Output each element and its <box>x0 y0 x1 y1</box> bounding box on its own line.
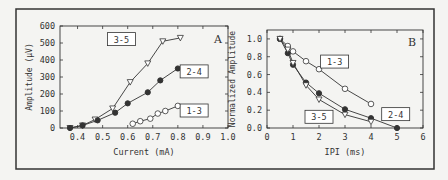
data-point-filled <box>394 125 399 130</box>
y-tick-label: 500 <box>40 38 55 48</box>
x-tick-label: 5 <box>394 132 399 142</box>
x-tick-label: 0.8 <box>170 132 185 142</box>
data-point-filled <box>67 125 72 130</box>
series-line-2-4 <box>70 69 178 129</box>
series-line-3-5 <box>70 38 180 128</box>
x-tick-label: 0.5 <box>95 132 110 142</box>
data-point-open <box>342 86 348 92</box>
data-point-filled <box>342 107 347 112</box>
data-point-open <box>137 118 143 124</box>
data-point-filled <box>175 66 180 71</box>
data-point-open <box>147 116 153 122</box>
y-tick-label: 600 <box>40 21 55 31</box>
x-axis-label: Current (mA) <box>113 147 174 157</box>
y-tick-label: 0.8 <box>247 52 262 62</box>
x-tick-label: 0.4 <box>70 132 85 142</box>
x-tick-label: 6 <box>420 132 425 142</box>
x-tick-label: 0.6 <box>120 132 135 142</box>
data-point-triangle <box>127 80 133 86</box>
series-label: 1-3 <box>327 57 342 67</box>
series-label: 2-4 <box>388 110 403 120</box>
data-point-filled <box>80 123 85 128</box>
data-point-open <box>130 121 136 127</box>
y-tick-label: 200 <box>40 89 55 99</box>
data-point-open <box>290 49 296 55</box>
y-tick-label: 400 <box>40 55 55 65</box>
x-tick-label: 4 <box>368 132 373 142</box>
y-tick-label: 0.2 <box>247 105 262 115</box>
data-point-open <box>163 108 169 114</box>
series-label: 3-5 <box>114 35 129 45</box>
y-tick-label: 0.4 <box>247 87 262 97</box>
y-axis-label: Normalized Amplitude <box>228 31 237 128</box>
figure: 0.40.50.60.70.80.91.00100200300400500600… <box>0 0 448 180</box>
y-tick-label: 1.0 <box>247 34 262 44</box>
data-point-filled <box>125 101 130 106</box>
x-tick-label: 2 <box>316 132 321 142</box>
y-tick-label: 0 <box>50 123 55 133</box>
x-tick-label: 0.7 <box>145 132 160 142</box>
y-tick-label: 100 <box>40 106 55 116</box>
data-point-open <box>303 58 309 64</box>
x-axis-label: IPI (ms) <box>325 147 366 157</box>
data-point-filled <box>145 90 150 95</box>
series-label: 1-3 <box>186 106 201 116</box>
x-tick-label: 0 <box>264 132 269 142</box>
data-point-filled <box>316 91 321 96</box>
panel-b-chart: 01234560.00.20.40.60.81.0IPI (ms)Normali… <box>228 30 426 157</box>
x-tick-label: 3 <box>342 132 347 142</box>
data-point-open <box>155 111 161 117</box>
data-point-triangle <box>160 39 166 45</box>
data-point-filled <box>158 78 163 83</box>
y-tick-label: 0.0 <box>247 123 262 133</box>
data-point-open <box>368 101 374 107</box>
series-label: 3-5 <box>311 112 326 122</box>
data-point-triangle <box>316 97 322 103</box>
y-tick-label: 0.6 <box>247 70 262 80</box>
y-tick-label: 300 <box>40 72 55 82</box>
x-tick-label: 1.0 <box>220 132 235 142</box>
series-label: 2-4 <box>186 67 201 77</box>
data-point-triangle <box>368 119 374 125</box>
x-tick-label: 0.9 <box>195 132 210 142</box>
x-tick-label: 1 <box>290 132 295 142</box>
data-point-filled <box>113 110 118 115</box>
y-axis-label: Amplitude (μV) <box>25 43 34 110</box>
panel-label: B <box>408 36 416 49</box>
panel-label: A <box>213 33 223 46</box>
data-point-filled <box>95 118 100 123</box>
panel-a-chart: 0.40.50.60.70.80.91.00100200300400500600… <box>25 21 236 157</box>
